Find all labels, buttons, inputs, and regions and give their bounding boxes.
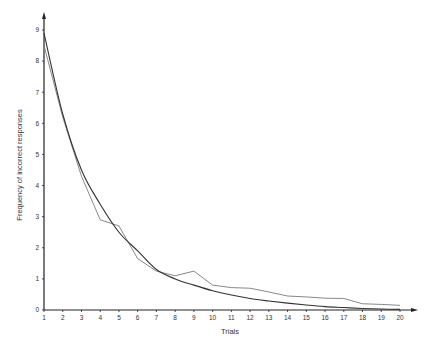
y-tick-label: 1 [35,275,39,282]
x-tick-label: 18 [359,314,367,321]
x-tick-label: 2 [61,314,65,321]
x-axis-arrow-icon [411,308,418,312]
x-tick-label: 5 [117,314,121,321]
x-tick-label: 1 [42,314,46,321]
y-tick-label: 8 [35,57,39,64]
y-tick-label: 5 [35,151,39,158]
y-tick-label: 0 [35,306,39,313]
x-tick-label: 3 [80,314,84,321]
x-tick-label: 8 [173,314,177,321]
y-tick-label: 9 [35,26,39,33]
y-tick-label: 7 [35,89,39,96]
x-tick-label: 10 [209,314,217,321]
y-tick-label: 3 [35,213,39,220]
x-tick-label: 17 [340,314,348,321]
x-tick-label: 16 [321,314,329,321]
x-tick-label: 14 [284,314,292,321]
x-tick-label: 11 [228,314,235,321]
y-ticks: 0123456789 [35,26,44,313]
x-tick-label: 6 [136,314,140,321]
y-axis-arrow-icon [42,12,46,19]
x-tick-label: 7 [155,314,159,321]
x-axis-title: Trials [221,327,239,336]
y-tick-label: 6 [35,120,39,127]
series-line-theoretical [44,33,400,309]
line-chart: 0123456789 12345678910111213141516171819… [0,0,433,350]
y-tick-label: 4 [35,182,39,189]
series-line-observed [44,46,400,306]
x-tick-label: 9 [192,314,196,321]
x-tick-label: 12 [246,314,254,321]
series-lines [44,33,400,309]
x-tick-label: 13 [265,314,273,321]
x-tick-label: 20 [396,314,404,321]
x-tick-label: 15 [303,314,311,321]
axes [42,12,418,312]
y-tick-label: 2 [35,244,39,251]
x-tick-label: 4 [98,314,102,321]
x-tick-label: 19 [378,314,386,321]
y-axis-title: Frequency of incorrect responses [15,109,24,221]
x-ticks: 1234567891011121314151617181920 [42,310,404,321]
